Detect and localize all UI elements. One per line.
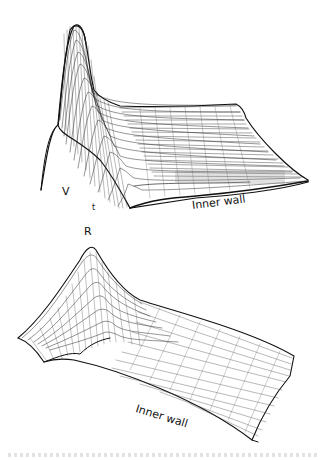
surface-plot-v: V t Inner wall [0, 0, 324, 230]
t-axis-label: t [92, 204, 95, 212]
cropped-caption-row [8, 453, 318, 457]
surface-r-label: R [84, 226, 92, 237]
surface-v-label: V [62, 186, 70, 197]
surface-r-wireframe [0, 220, 324, 460]
surface-plot-r: R Inner wall [0, 220, 324, 460]
surface-v-wireframe [0, 0, 324, 230]
